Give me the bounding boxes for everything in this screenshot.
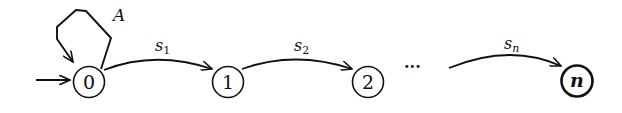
state-n: n [562,66,593,97]
state-label-1: 1 [222,71,234,93]
state-2: 2 [353,67,384,98]
edge-label-A: A [111,5,125,25]
edge-s1: s1 [104,36,212,70]
edge-label-s2: s2 [294,36,309,57]
edge-label-s1: s1 [155,36,170,57]
ellipsis: ··· [404,57,421,76]
state-1: 1 [213,67,244,98]
self-loop-edge: A [57,5,125,69]
edge-s2: s2 [242,36,352,69]
state-label-0: 0 [83,71,95,93]
edge-label-sn: sn [504,34,519,55]
automaton-diagram: A s1 s2 ··· sn 0 1 2 n [0,0,622,113]
state-label-2: 2 [362,71,374,93]
state-label-n: n [570,69,584,91]
edge-sn: sn [449,34,561,68]
state-0: 0 [74,67,105,98]
